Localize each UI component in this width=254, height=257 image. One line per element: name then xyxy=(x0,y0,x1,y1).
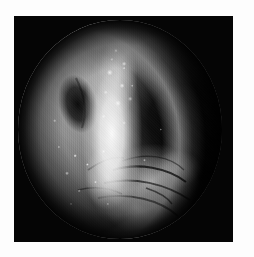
page-canvas xyxy=(0,0,254,257)
photo-frame xyxy=(14,16,233,242)
vignette-layer xyxy=(18,20,222,239)
endoscope-viewport xyxy=(14,16,233,242)
circular-field-of-view xyxy=(18,20,222,239)
